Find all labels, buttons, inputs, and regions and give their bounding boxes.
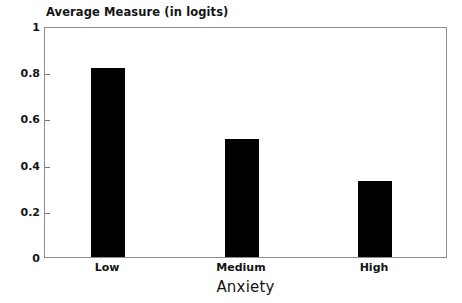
y-axis-tick-labels: 00.20.40.60.81 (0, 27, 40, 258)
y-tick-label: 0.4 (21, 159, 41, 172)
y-tick-mark (45, 120, 50, 121)
bar-high (358, 181, 392, 257)
y-tick-label: 0.2 (21, 205, 41, 218)
y-tick-label: 1 (32, 21, 40, 34)
y-tick-label: 0.6 (21, 113, 41, 126)
x-tick-label-low: Low (95, 261, 120, 274)
x-tick-label-medium: Medium (216, 261, 265, 274)
plot-area (44, 27, 447, 258)
x-axis-tick-labels: LowMediumHigh (44, 261, 447, 277)
bar-low (91, 68, 125, 257)
bar-chart-figure: Average Measure (in logits) 00.20.40.60.… (0, 0, 462, 303)
x-tick-label-high: High (360, 261, 389, 274)
y-tick-mark (45, 74, 50, 75)
chart-title: Average Measure (in logits) (46, 5, 228, 19)
y-tick-label: 0 (32, 252, 40, 265)
y-tick-label: 0.8 (21, 67, 41, 80)
y-tick-mark (45, 213, 50, 214)
bar-medium (225, 139, 259, 257)
y-tick-mark (45, 167, 50, 168)
x-axis-title: Anxiety (44, 278, 447, 296)
